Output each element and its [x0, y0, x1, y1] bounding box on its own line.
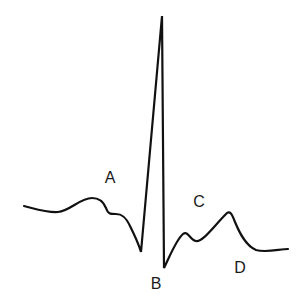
- label-b: B: [151, 276, 162, 292]
- label-c: C: [193, 194, 205, 210]
- ecg-trace-path: [24, 16, 288, 268]
- ecg-waveform-trace: [0, 0, 303, 307]
- ecg-diagram: A B C D: [0, 0, 303, 307]
- label-a: A: [105, 170, 116, 186]
- label-d: D: [234, 260, 246, 276]
